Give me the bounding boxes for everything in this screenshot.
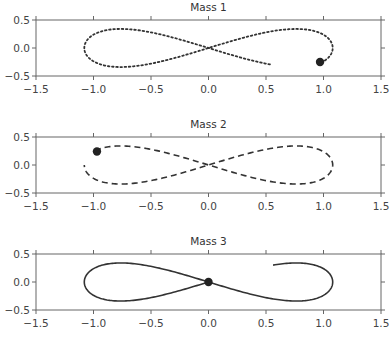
y-tick-label: 0.5 xyxy=(13,131,30,143)
y-tick-label: −0.5 xyxy=(5,304,31,316)
x-tick-label: −1.5 xyxy=(23,200,49,212)
x-tick-label: −0.5 xyxy=(138,317,164,329)
x-tick-label: 1.0 xyxy=(315,200,332,212)
mass-position-marker xyxy=(93,147,101,155)
x-tick-label: −1.5 xyxy=(23,83,49,95)
y-tick-label: −0.5 xyxy=(5,70,31,82)
y-tick-label: 0.0 xyxy=(13,159,30,171)
x-tick-label: −1.0 xyxy=(81,200,107,212)
x-tick-label: −1.0 xyxy=(81,317,107,329)
y-tick-label: 0.0 xyxy=(13,42,30,54)
y-tick-label: −0.5 xyxy=(5,187,31,199)
mass-position-marker xyxy=(316,58,324,66)
x-tick-label: −0.5 xyxy=(138,83,164,95)
x-tick-label: 1.5 xyxy=(373,200,390,212)
figure-eight-three-body-figure: Mass 1−1.5−1.0−0.50.00.51.01.50.50.0−0.5… xyxy=(0,0,391,343)
y-tick-label: 0.0 xyxy=(13,276,30,288)
y-tick-label: 0.5 xyxy=(13,14,30,26)
x-tick-label: 0.0 xyxy=(200,83,217,95)
x-tick-label: 0.0 xyxy=(200,200,217,212)
x-tick-label: 0.5 xyxy=(258,317,275,329)
x-tick-label: 1.0 xyxy=(315,317,332,329)
y-tick-label: 0.5 xyxy=(13,248,30,260)
x-tick-label: 1.0 xyxy=(315,83,332,95)
x-tick-label: 0.5 xyxy=(258,200,275,212)
x-tick-label: 1.5 xyxy=(373,83,390,95)
trajectory-line xyxy=(84,146,332,184)
subplot-title: Mass 2 xyxy=(190,118,226,130)
x-tick-label: 1.5 xyxy=(373,317,390,329)
x-tick-label: 0.0 xyxy=(200,317,217,329)
mass-1-subplot: Mass 1−1.5−1.0−0.50.00.51.01.50.50.0−0.5 xyxy=(5,1,390,95)
x-tick-label: 0.5 xyxy=(258,83,275,95)
mass-3-subplot: Mass 3−1.5−1.0−0.50.00.51.01.50.50.0−0.5 xyxy=(5,235,390,329)
mass-2-subplot: Mass 2−1.5−1.0−0.50.00.51.01.50.50.0−0.5 xyxy=(5,118,390,212)
mass-position-marker xyxy=(204,278,212,286)
axes-frame xyxy=(36,137,381,193)
trajectory-line xyxy=(84,29,332,67)
x-tick-label: −1.5 xyxy=(23,317,49,329)
subplot-title: Mass 1 xyxy=(190,1,226,13)
x-tick-label: −0.5 xyxy=(138,200,164,212)
x-tick-label: −1.0 xyxy=(81,83,107,95)
subplot-title: Mass 3 xyxy=(190,235,226,247)
